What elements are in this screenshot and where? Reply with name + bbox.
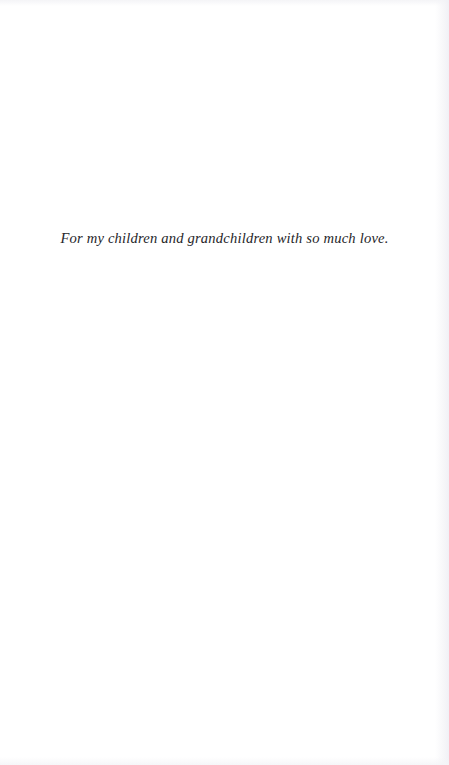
scan-edge-shadow-top xyxy=(0,0,449,6)
scan-edge-shadow-right xyxy=(435,0,449,765)
dedication-text: For my children and grandchildren with s… xyxy=(60,228,388,248)
dedication-block: For my children and grandchildren with s… xyxy=(0,228,449,248)
scanned-page: For my children and grandchildren with s… xyxy=(0,0,449,765)
scan-edge-shadow-bottom xyxy=(0,757,449,765)
